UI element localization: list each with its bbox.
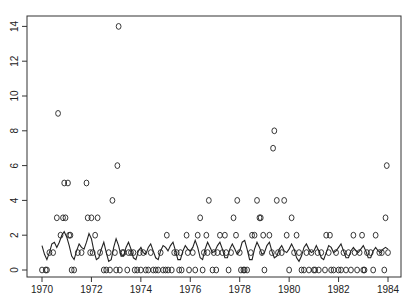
data-point [307,267,312,273]
x-tick-label: 1970 [31,284,54,295]
data-point [226,267,231,273]
data-point [234,232,239,238]
data-point [193,267,198,273]
data-point [115,163,120,169]
y-tick-label: 10 [9,90,20,102]
y-axis: 02468101214 [9,20,27,272]
smooth-line [42,232,388,262]
data-point [204,232,209,238]
data-point [258,215,263,221]
y-tick-label: 14 [9,20,20,32]
data-point [386,250,391,256]
data-points [40,24,391,273]
y-tick-label: 0 [9,267,20,273]
data-point [255,198,260,204]
data-point [95,215,100,221]
data-point [45,267,50,273]
x-tick-label: 1984 [377,284,400,295]
data-point [206,198,211,204]
data-point [360,232,365,238]
data-point [304,250,309,256]
data-point [56,111,61,117]
x-axis: 19701972197419761978198019821984 [31,277,400,295]
x-tick-label: 1978 [229,284,252,295]
data-point [274,198,279,204]
data-point [282,198,287,204]
data-point [257,215,262,221]
data-point [383,215,388,221]
chart: 02468101214 1970197219741976197819801982… [0,0,412,301]
data-point [190,250,195,256]
plot-frame [27,16,401,277]
data-point [351,232,356,238]
x-tick-label: 1974 [130,284,153,295]
data-point [261,232,266,238]
data-point [371,267,376,273]
data-point [198,215,203,221]
data-point [235,198,240,204]
data-point [287,267,292,273]
data-point [373,232,378,238]
data-point [113,250,118,256]
data-point [148,250,153,256]
data-point [164,232,169,238]
data-point [125,267,130,273]
data-point [384,163,389,169]
data-point [248,250,253,256]
y-tick-label: 6 [9,162,20,168]
data-point [349,267,354,273]
data-point [326,250,331,256]
data-point [267,232,272,238]
data-point [271,145,276,151]
y-tick-label: 4 [9,197,20,203]
data-point [262,267,267,273]
data-point [116,24,121,30]
data-point [352,250,357,256]
data-point [344,267,349,273]
data-point [222,232,227,238]
x-tick-label: 1980 [278,284,301,295]
x-tick-label: 1972 [80,284,103,295]
data-point [200,267,205,273]
data-point [297,250,302,256]
data-point [84,180,89,186]
data-point [185,250,190,256]
data-point [289,215,294,221]
data-point [361,267,366,273]
data-point [106,250,111,256]
y-tick-label: 8 [9,128,20,134]
x-tick-label: 1976 [179,284,202,295]
data-point [184,232,189,238]
data-point [110,198,115,204]
data-point [68,232,73,238]
data-point [272,128,277,134]
data-point [187,267,192,273]
data-point [382,267,387,273]
data-point [294,232,299,238]
data-point [311,267,316,273]
data-point [231,215,236,221]
data-point [54,215,59,221]
data-point [67,232,72,238]
data-point [218,232,223,238]
data-point [355,267,360,273]
data-point [93,232,98,238]
y-tick-label: 12 [9,55,20,67]
y-tick-label: 2 [9,232,20,238]
data-point [362,267,367,273]
data-point [195,232,200,238]
data-point [323,267,328,273]
data-point [284,232,289,238]
x-tick-label: 1982 [327,284,350,295]
